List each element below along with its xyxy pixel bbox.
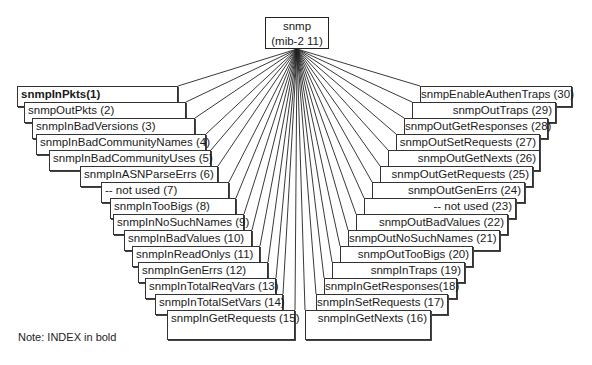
root-node-snmp: snmp (mib-2 11) [265,17,329,49]
connector-line [195,49,297,118]
connector-line [268,49,297,262]
connector-line [297,49,404,118]
connector-line [297,49,412,102]
connector-line [297,49,420,86]
connector-line [178,49,297,86]
mib-node-15: snmpInGetRequests (15) [167,310,295,340]
connector-line [236,49,297,198]
connector-line [252,49,297,230]
mib-node-16: snmpInGetNexts (16) [305,310,431,340]
root-node-title: snmp [266,19,328,34]
connector-line [218,49,297,166]
connector-line [295,49,297,310]
legend-note: Note: INDEX in bold [18,331,116,343]
connector-line [297,49,324,278]
root-node-oid: (mib-2 11) [266,34,328,49]
connector-line [297,49,388,150]
snmp-mib-tree-diagram: snmp (mib-2 11) snmpInPkts(1)snmpOutPkts… [0,0,592,365]
connector-line [186,49,297,102]
